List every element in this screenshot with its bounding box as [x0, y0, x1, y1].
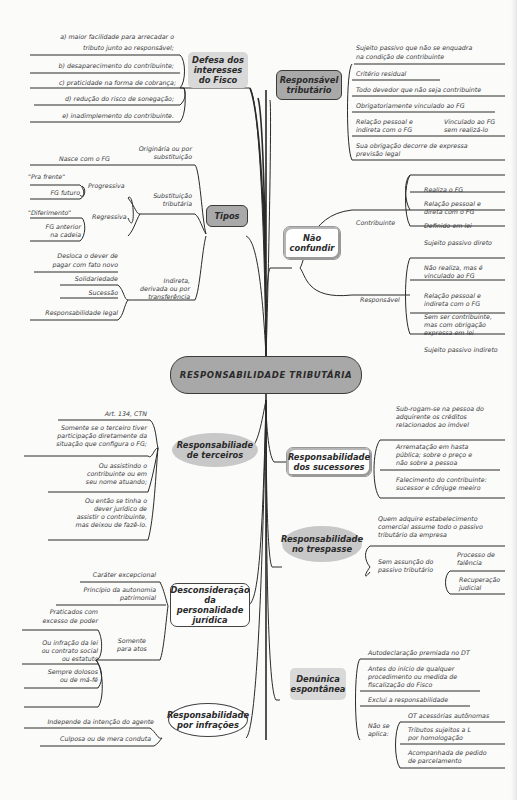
branch-nao-aplica-label: Não se aplica: — [368, 722, 390, 738]
leaf-text: Ou infração da lei — [42, 639, 98, 647]
leaf-text: mas com obrigação — [424, 321, 486, 329]
leaf-text: Culposa ou de mera conduta — [60, 735, 151, 743]
node-denuncia-espontanea[interactable]: Denúnica espontânea — [290, 668, 346, 700]
leaf-text: relacionados ao imóvel — [396, 421, 469, 429]
leaf-text: excesso de poder — [42, 617, 98, 625]
leaf-text: Independe da intenção do agente — [48, 718, 154, 726]
node-tipos[interactable]: Tipos — [206, 205, 248, 227]
leaf-text: fiscalização do Fisco — [368, 681, 432, 689]
node-label: jurídica — [193, 615, 228, 625]
branch-responsavel-label: Responsável — [360, 296, 400, 304]
node-label: Responsabilidade — [288, 452, 370, 462]
leaf-text: Quem adquire estabelecimento — [378, 515, 478, 523]
leaf-text: vinculado ao FG — [424, 272, 475, 280]
node-label: do Fisco — [199, 75, 238, 85]
branch-indireta-label: Indireta, derivada ou por transferência — [140, 277, 190, 301]
leaf-text: c) praticidade na forma de cobrança; — [59, 79, 176, 87]
node-label: Responsabiliade — [177, 440, 253, 450]
leaf-text: Autodeclaração premiada no DT — [368, 649, 470, 657]
leaf-text: Vinculado ao FG — [444, 118, 495, 126]
leaf-text: sem realizá-lo — [444, 126, 488, 134]
node-defesa-interesses-fisco[interactable]: Defesa dos interesses do Fisco — [188, 52, 248, 88]
leaf-text: Todo devedor que não seja contribuinte — [356, 86, 481, 94]
leaf-text: direta com o FG — [424, 208, 474, 216]
node-responsabilidade-sucessores[interactable]: Responsabilidade dos sucessores — [286, 447, 372, 477]
leaf-text: Definido em lei — [424, 222, 472, 230]
node-label: interesses — [194, 65, 243, 75]
leaf-text: indireta com o FG — [424, 300, 480, 308]
leaf-text: Sujeito passivo indireto — [424, 346, 498, 354]
node-desconsideracao-personalidade[interactable]: Desconsideração da personalidade jurídic… — [170, 583, 250, 627]
leaf-text: por homologação — [408, 734, 463, 742]
leaf-text: previsão legal — [356, 150, 400, 158]
node-label: Não — [303, 233, 321, 243]
node-responsabilidade-terceiros[interactable]: Responsabiliade de terceiros — [172, 433, 258, 467]
leaf-text: sucessor e cônjuge meeiro — [396, 484, 480, 492]
node-label: dos sucessores — [293, 462, 364, 472]
leaf-text: "Pra frente" — [28, 173, 65, 181]
leaf-text: Não realiza, mas é — [424, 264, 483, 272]
leaf-text: procedimento ou medida de — [368, 673, 457, 681]
leaf-text: assistir o contribuinte, — [77, 513, 147, 521]
leaf-text: Caráter excepcional — [93, 571, 156, 579]
leaf-text: falência — [457, 559, 482, 567]
leaf-text: mas deixou de fazê-lo. — [76, 521, 147, 529]
leaf-text: pública; sobre o preço e — [396, 451, 472, 459]
node-responsabilidade-trespasse[interactable]: Responsabilidade no trespasse — [282, 526, 362, 562]
node-label: de terceiros — [187, 450, 243, 460]
node-responsavel-tributario[interactable]: Responsável tributário — [276, 70, 342, 100]
leaf-text: Somente se o terceiro tiver — [61, 424, 147, 432]
leaf-text: Realiza o FG — [424, 186, 463, 194]
leaf-text: dever jurídico de — [94, 505, 147, 513]
node-label: Responsabilidade — [281, 534, 363, 544]
leaf-text: tributo junto ao responsável; — [83, 44, 174, 52]
leaf-text: na cadeia — [50, 231, 81, 239]
branch-originaria-label: Originária ou por substituição — [139, 145, 192, 161]
leaf-text: Praticados com — [50, 608, 98, 616]
leaf-text: OT acessórias autônomas — [408, 712, 489, 720]
leaf-text: Desloca o dever de — [57, 252, 118, 260]
branch-substituicao-label: Substituição tributária — [153, 192, 192, 208]
node-responsabilidade-infracoes[interactable]: Responsabilidade por infrações — [168, 703, 248, 737]
leaf-text: Responsabilidade legal — [45, 309, 118, 317]
leaf-text: de parcelamento — [408, 757, 462, 765]
leaf-text: Acompanhada de pedido — [408, 749, 487, 757]
leaf-text: b) desaparecimento do contribuinte; — [59, 62, 174, 70]
leaf-text: comercial assume todo o passivo — [378, 523, 483, 531]
leaf-text: Critério residual — [356, 70, 406, 78]
leaf-text: contribuinte ou em — [87, 470, 147, 478]
node-label: Denúnica — [296, 674, 340, 684]
leaf-text: expressa em lei — [424, 329, 474, 337]
leaf-text: situação que configura o FG; — [56, 440, 147, 448]
leaf-text: "Diferimento" — [28, 209, 71, 217]
leaf-text: Art. 134, CTN — [105, 410, 147, 418]
leaf-text: Processo de — [457, 551, 495, 559]
leaf-text: Relação pessoal e — [424, 292, 481, 300]
leaf-text: Sujeito passivo que não se enquadra — [356, 44, 472, 52]
leaf-text: ou contrato social — [42, 647, 98, 655]
leaf-text: Princípio da autonomia — [83, 586, 156, 594]
leaf-text: ou de má-fé — [60, 676, 98, 684]
leaf-text: Sujeito passivo direto — [424, 239, 492, 247]
leaf-text: ou estatuto — [62, 655, 98, 663]
branch-sem-assuncao-label: Sem assunção do passivo tributário — [378, 558, 433, 574]
node-label: Desconsideração — [170, 585, 249, 595]
leaf-text: na condição de contribuinte — [356, 53, 444, 61]
leaf-text: pagar com fato novo — [52, 261, 118, 269]
central-topic[interactable]: RESPONSABILIDADE TRIBUTÁRIA — [170, 356, 362, 394]
node-nao-confundir[interactable]: Não confundir — [283, 226, 341, 260]
leaf-text: Relação pessoal e — [424, 200, 481, 208]
leaf-text: Obrigatoriamente vinculado ao FG — [356, 102, 465, 110]
branch-contribuinte-label: Contribuinte — [356, 219, 395, 227]
node-label: Responsável — [280, 75, 339, 85]
node-label: por infrações — [177, 720, 239, 730]
node-label: confundir — [290, 243, 335, 253]
leaf-text: Sempre dolosos — [48, 668, 98, 676]
node-label: Defesa dos — [192, 55, 244, 65]
branch-progressiva-label: Progressiva — [88, 182, 125, 190]
mind-map: RESPONSABILIDADE TRIBUTÁRIA Defesa dos i… — [0, 0, 517, 800]
leaf-text: Ou então se tinha o — [85, 497, 147, 505]
leaf-text: a) maior facilidade para arrecadar o — [60, 33, 174, 41]
leaf-text: Arrematação em hasta — [396, 443, 468, 451]
leaf-text: Sub-rogam-se na pessoa do — [396, 405, 484, 413]
